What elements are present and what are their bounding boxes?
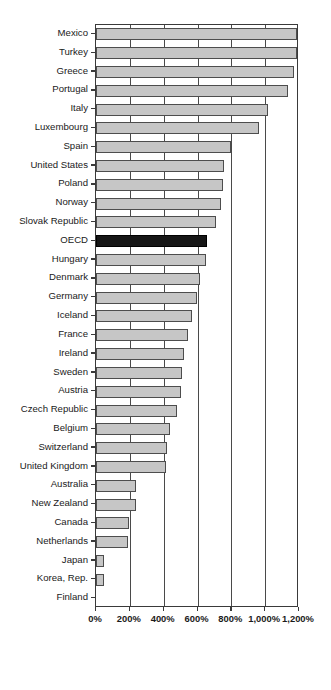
bar-row [96, 589, 297, 608]
x-axis: 0%200%400%600%800%1,000%1,200% [95, 607, 298, 637]
bar-row [96, 345, 297, 364]
y-axis-label-iceland: Iceland [57, 306, 88, 325]
bar-slovak-republic[interactable] [96, 216, 216, 228]
x-axis-label-2: 400% [151, 613, 175, 624]
bar-denmark[interactable] [96, 273, 200, 285]
x-axis-label-6: 1,200% [282, 613, 314, 624]
bar-norway[interactable] [96, 198, 221, 210]
bar-greece[interactable] [96, 66, 294, 78]
bar-portugal[interactable] [96, 85, 288, 97]
bar-oecd[interactable] [96, 235, 207, 247]
y-axis-label-luxembourg: Luxembourg [35, 118, 88, 137]
bar-united-kingdom[interactable] [96, 461, 166, 473]
bar-germany[interactable] [96, 292, 197, 304]
bar-new-zealand[interactable] [96, 499, 136, 511]
y-axis-label-united-states: United States [30, 156, 88, 175]
bar-row [96, 157, 297, 176]
bar-ireland[interactable] [96, 348, 184, 360]
x-tick [230, 607, 231, 611]
y-axis-label-italy: Italy [70, 99, 88, 118]
y-axis-label-australia: Australia [51, 475, 88, 494]
y-axis-label-spain: Spain [63, 137, 88, 156]
bar-row [96, 232, 297, 251]
bar-spain[interactable] [96, 141, 231, 153]
bar-row [96, 401, 297, 420]
y-axis-label-belgium: Belgium [53, 419, 88, 438]
y-axis-label-ireland: Ireland [59, 344, 88, 363]
bar-row [96, 439, 297, 458]
x-tick [264, 607, 265, 611]
bar-australia[interactable] [96, 480, 136, 492]
y-axis-label-korea-rep: Korea, Rep. [37, 569, 88, 588]
bar-row [96, 44, 297, 63]
bar-row [96, 458, 297, 477]
bar-canada[interactable] [96, 517, 129, 529]
y-axis-label-oecd: OECD [60, 231, 88, 250]
bar-row [96, 514, 297, 533]
x-axis-label-0: 0% [88, 613, 102, 624]
y-axis-label-canada: Canada [54, 513, 88, 532]
bar-luxembourg[interactable] [96, 122, 259, 134]
bar-row [96, 326, 297, 345]
bar-mexico[interactable] [96, 28, 297, 40]
x-tick [163, 607, 164, 611]
bar-switzerland[interactable] [96, 442, 167, 454]
y-axis-label-portugal: Portugal [52, 80, 88, 99]
bar-united-states[interactable] [96, 160, 224, 172]
y-axis-label-france: France [58, 325, 88, 344]
bar-japan[interactable] [96, 555, 104, 567]
y-axis-label-sweden: Sweden [53, 363, 88, 382]
y-axis-label-denmark: Denmark [49, 268, 88, 287]
y-axis-label-turkey: Turkey [59, 43, 88, 62]
x-axis-label-4: 800% [218, 613, 242, 624]
bar-row [96, 533, 297, 552]
bar-row [96, 81, 297, 100]
bar-row [96, 288, 297, 307]
bar-row [96, 213, 297, 232]
y-axis-label-austria: Austria [58, 381, 88, 400]
bar-row [96, 552, 297, 571]
y-axis-label-netherlands: Netherlands [36, 532, 88, 551]
bar-poland[interactable] [96, 179, 223, 191]
bar-iceland[interactable] [96, 310, 192, 322]
y-axis-label-mexico: Mexico [58, 24, 88, 43]
bar-france[interactable] [96, 329, 188, 341]
bar-austria[interactable] [96, 386, 181, 398]
x-tick [298, 607, 299, 611]
bar-rows [96, 25, 297, 606]
x-axis-label-1: 200% [117, 613, 141, 624]
y-axis-label-hungary: Hungary [52, 250, 88, 269]
y-axis-label-finland: Finland [57, 588, 88, 607]
bar-hungary[interactable] [96, 254, 206, 266]
y-axis-label-czech-republic: Czech Republic [21, 400, 88, 419]
bar-row [96, 420, 297, 439]
x-tick [95, 607, 96, 611]
bar-turkey[interactable] [96, 47, 297, 59]
bar-korea-rep[interactable] [96, 574, 104, 586]
y-axis-label-poland: Poland [58, 174, 88, 193]
x-axis-label-3: 600% [185, 613, 209, 624]
bar-belgium[interactable] [96, 423, 170, 435]
bar-row [96, 100, 297, 119]
bar-row [96, 495, 297, 514]
y-axis: MexicoTurkeyGreecePortugalItalyLuxembour… [0, 24, 95, 607]
y-axis-label-switzerland: Switzerland [38, 438, 88, 457]
bar-netherlands[interactable] [96, 536, 128, 548]
x-axis-label-5: 1,000% [248, 613, 280, 624]
bar-row [96, 119, 297, 138]
bar-italy[interactable] [96, 104, 268, 116]
bar-sweden[interactable] [96, 367, 182, 379]
bar-row [96, 63, 297, 82]
bar-row [96, 364, 297, 383]
bar-row [96, 138, 297, 157]
bar-row [96, 382, 297, 401]
bar-row [96, 269, 297, 288]
bar-row [96, 570, 297, 589]
y-axis-label-greece: Greece [57, 62, 88, 81]
chart-container: MexicoTurkeyGreecePortugalItalyLuxembour… [0, 0, 331, 690]
bar-row [96, 194, 297, 213]
bar-czech-republic[interactable] [96, 405, 177, 417]
y-axis-label-united-kingdom: United Kingdom [20, 457, 88, 476]
x-tick [129, 607, 130, 611]
y-axis-label-slovak-republic: Slovak Republic [19, 212, 88, 231]
